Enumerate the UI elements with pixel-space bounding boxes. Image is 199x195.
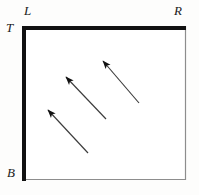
rectangle-interior <box>22 26 186 180</box>
figure-container: L R T B <box>0 0 199 195</box>
label-left-top-T: T <box>6 21 13 34</box>
rectangle-frame <box>22 26 186 181</box>
figure-canvas <box>0 0 199 195</box>
label-top-left-L: L <box>24 4 31 17</box>
label-top-right-R: R <box>174 4 182 17</box>
label-left-bottom-B: B <box>7 166 15 179</box>
